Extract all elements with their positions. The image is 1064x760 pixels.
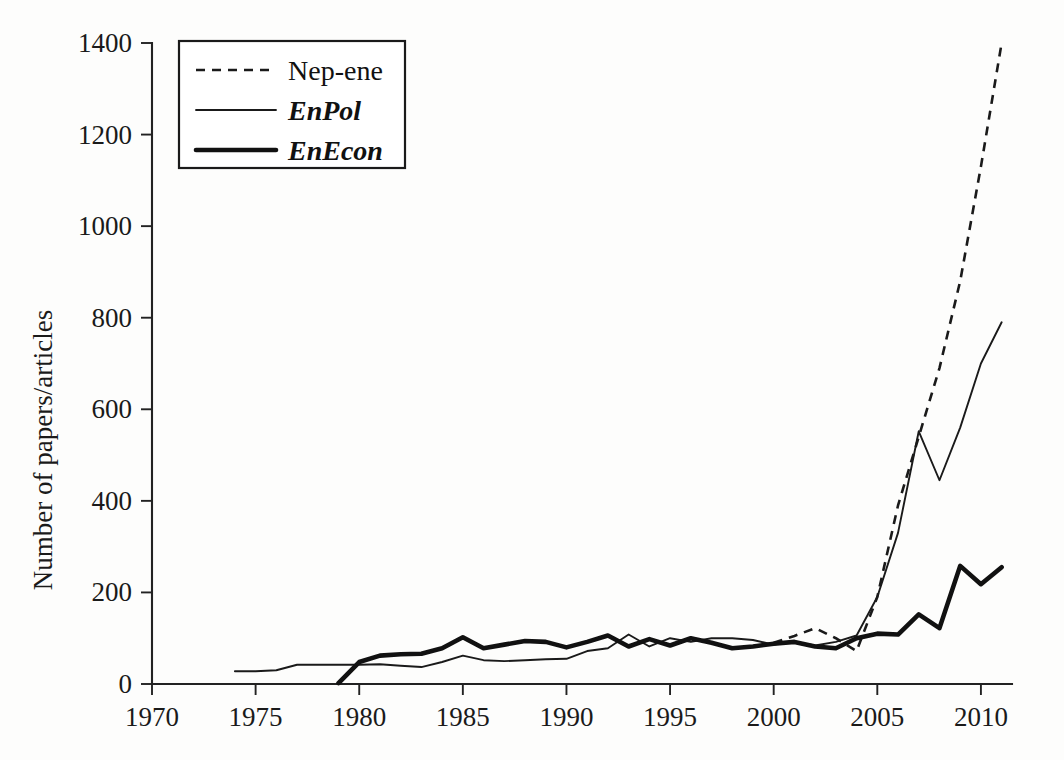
y-tick-label: 200 <box>92 577 133 607</box>
series-line-enecon <box>339 566 1002 683</box>
x-tick-group: 197019751980198519901995200020052010 <box>125 684 1008 732</box>
legend: Nep-ene EnPol EnEcon <box>179 41 405 168</box>
legend-label-nep-ene: Nep-ene <box>288 55 383 86</box>
line-chart: Number of papers/articles 02004006008001… <box>0 0 1064 760</box>
y-tick-label: 600 <box>92 394 133 424</box>
y-tick-label: 1000 <box>78 211 132 241</box>
legend-label-enecon: EnEcon <box>287 135 383 166</box>
series-line-enpol <box>235 322 1002 671</box>
figure-container: Number of papers/articles 02004006008001… <box>0 0 1064 760</box>
x-tick-label: 1990 <box>539 702 593 732</box>
x-tick-label: 2005 <box>850 702 904 732</box>
x-tick-label: 1985 <box>436 702 490 732</box>
x-tick-label: 1980 <box>332 702 386 732</box>
y-tick-label: 800 <box>92 303 133 333</box>
series-line-nep-ene <box>774 43 1002 651</box>
legend-label-enpol: EnPol <box>287 95 361 126</box>
x-tick-label: 2000 <box>747 702 801 732</box>
y-tick-label: 400 <box>92 486 133 516</box>
y-tick-label: 1200 <box>78 120 132 150</box>
x-tick-label: 1970 <box>125 702 179 732</box>
y-tick-label: 0 <box>119 669 133 699</box>
y-axis-label: Number of papers/articles <box>28 310 58 590</box>
x-tick-label: 1995 <box>643 702 697 732</box>
x-tick-label: 1975 <box>229 702 283 732</box>
y-tick-label: 1400 <box>78 28 132 58</box>
x-tick-label: 2010 <box>954 702 1008 732</box>
y-tick-group: 0200400600800100012001400 <box>78 28 152 699</box>
